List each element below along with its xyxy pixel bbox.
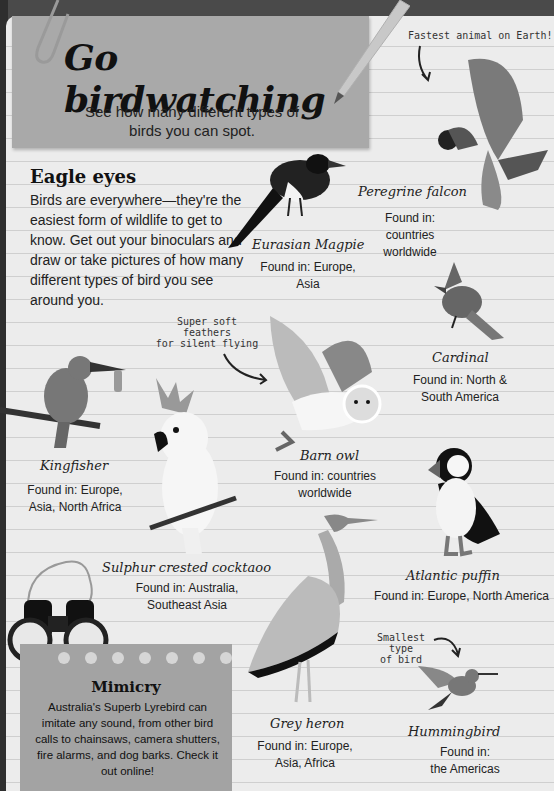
bird-found-in: Found in: Europe,Asia, Africa (250, 738, 360, 772)
bird-name: Barn owl (300, 448, 359, 463)
intro-heading: Eagle eyes (30, 166, 136, 187)
owl-note: Super soft feathersfor silent flying (152, 316, 262, 349)
bird-found-in: Found in: North &South America (405, 372, 515, 406)
bird-name: Kingfisher (40, 458, 108, 473)
kingfisher-icon (0, 348, 130, 453)
bird-found-in: Found in: Europe,Asia, North Africa (20, 482, 130, 516)
bird-found-in: Found in: countriesworldwide (360, 210, 460, 261)
heron-icon (238, 512, 378, 708)
page-subtitle: See how many different types of birds yo… (82, 102, 302, 140)
mimicry-card: Mimicry Australia's Superb Lyrebird can … (20, 644, 232, 791)
cardinal-icon (432, 262, 507, 342)
bird-found-in: Found in: countries worldwide (250, 468, 400, 502)
arrow-icon (414, 44, 434, 84)
bird-name: Atlantic puffin (406, 568, 500, 583)
falcon-note: Fastest animal on Earth! (408, 30, 553, 41)
bird-found-in: Found in: Australia,Southeast Asia (122, 580, 252, 614)
owl-icon (262, 312, 382, 457)
intro-body: Birds are everywhere—they're the easiest… (30, 190, 250, 310)
punch-holes (58, 652, 232, 664)
pencil-icon (330, 0, 410, 104)
bird-name: Eurasian Magpie (252, 237, 364, 252)
bird-name: Peregrine falcon (358, 184, 467, 199)
cockatoo-icon (146, 378, 241, 558)
hummingbird-note: Smallest typeof bird (366, 632, 436, 665)
bird-name: Cardinal (432, 350, 489, 365)
bird-name: Grey heron (270, 716, 344, 731)
bird-name: Hummingbird (408, 724, 500, 739)
puffin-icon (428, 444, 513, 562)
bird-found-in: Found in:the Americas (420, 744, 510, 778)
bird-found-in: Found in: Europe, North America (374, 588, 549, 605)
hummingbird-icon (418, 662, 498, 712)
mimicry-heading: Mimicry (20, 678, 232, 696)
arrow-icon (432, 634, 462, 660)
paperclip-icon (28, 0, 70, 66)
mimicry-body: Australia's Superb Lyrebird can imitate … (30, 699, 225, 779)
bird-found-in: Found in: Europe, Asia (248, 259, 368, 293)
